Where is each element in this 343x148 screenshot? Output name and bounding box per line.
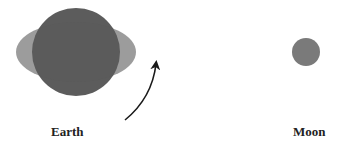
earth-group [16, 8, 136, 96]
earth-label: Earth [51, 124, 84, 140]
rotation-arrow-icon [125, 64, 156, 120]
moon-circle [292, 38, 320, 66]
moon-label: Moon [293, 124, 326, 140]
tidal-bulge-ellipse [16, 22, 136, 82]
